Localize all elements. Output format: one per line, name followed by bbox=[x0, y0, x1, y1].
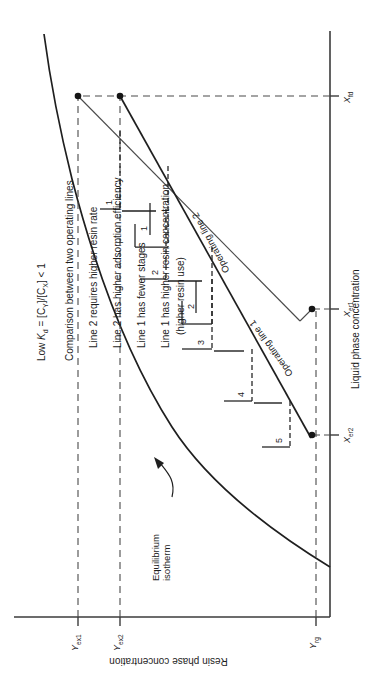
note-subheading: Comparison between two operating lines bbox=[64, 31, 75, 361]
equilibrium-isotherm-label-line2: isotherm bbox=[161, 545, 172, 581]
note-heading-suffix: ] < 1 bbox=[36, 263, 47, 283]
notes-block: Low Kd = [CY]/[CX] < 1 Comparison betwee… bbox=[36, 31, 199, 361]
note-bullet-5: (higher resin use) bbox=[175, 31, 186, 361]
point-xer1-yrg bbox=[309, 306, 316, 313]
note-heading-symbol-sub: d bbox=[42, 329, 49, 333]
note-bullet-4-text: Line 1 has higher resin concentration bbox=[160, 184, 171, 361]
x-tick-label-fd: Xfd bbox=[342, 92, 354, 103]
note-heading-equation: = [C bbox=[36, 308, 47, 329]
note-heading-num-sub: Y bbox=[42, 303, 49, 308]
note-heading-den-sub: X bbox=[42, 283, 49, 288]
note-bullet-3: Line 1 has fewer stages bbox=[136, 31, 147, 361]
x-axis-title: Liquid phase concentration bbox=[350, 269, 361, 389]
note-bullet-2-text: Line 2 has higher adsorption efficiency bbox=[112, 178, 123, 361]
figure-rotator: Liquid phase concentration Resin phase c… bbox=[0, 0, 382, 679]
note-bullet-1: Line 2 requires higher resin rate bbox=[88, 31, 99, 361]
y-axis-title: Resin phase concentration bbox=[109, 656, 227, 667]
y-tick-label-rg: Yrg bbox=[308, 637, 320, 649]
y-tick-label-ex2: Yex2 bbox=[112, 635, 124, 652]
note-heading-kd: Low Kd = [CY]/[CX] < 1 bbox=[36, 31, 49, 361]
figure-canvas: Liquid phase concentration Resin phase c… bbox=[0, 0, 382, 679]
equilibrium-callout-line bbox=[160, 463, 173, 497]
note-bullet-3-text: Line 1 has fewer stages bbox=[136, 242, 147, 361]
point-xer2-yrg bbox=[309, 432, 316, 439]
note-bullet-4: Line 1 has higher resin concentration bbox=[160, 31, 171, 361]
note-bullet-5-text: (higher resin use) bbox=[175, 257, 186, 361]
note-heading-symbol: K bbox=[36, 333, 47, 340]
stage-number-l1-4: 4 bbox=[236, 392, 246, 397]
equilibrium-isotherm-label: Equilibrium isotherm bbox=[150, 534, 173, 581]
y-tick-label-ex1: Yex1 bbox=[70, 635, 82, 652]
stage-number-l1-5: 5 bbox=[274, 438, 284, 443]
note-heading-prefix: Low bbox=[36, 340, 47, 361]
equilibrium-isotherm-label-line1: Equilibrium bbox=[150, 534, 161, 581]
note-heading-mid: ]/[C bbox=[36, 288, 47, 304]
x-tick-label-er1: Xer1 bbox=[342, 302, 354, 317]
x-tick-label-er2: Xer2 bbox=[342, 428, 354, 443]
note-bullet-2: Line 2 has higher adsorption efficiency bbox=[112, 31, 123, 361]
equilibrium-callout-arrowhead bbox=[154, 457, 164, 469]
note-bullet-1-text: Line 2 requires higher resin rate bbox=[88, 207, 99, 361]
